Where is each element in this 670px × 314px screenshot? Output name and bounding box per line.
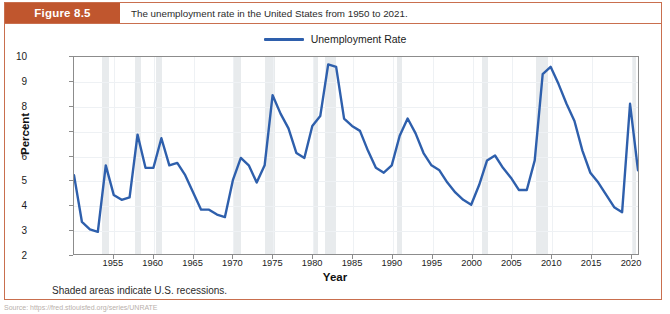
x-axis-tick-label: 2000: [461, 258, 482, 268]
x-axis-tick-label: 1975: [262, 258, 283, 268]
x-axis-tick-mark: [153, 255, 154, 259]
x-axis-tick-mark: [272, 255, 273, 259]
x-axis-tick-label: 1995: [421, 258, 442, 268]
x-axis-tick-mark: [591, 255, 592, 259]
x-axis-tick-label: 1970: [222, 258, 243, 268]
y-axis-tick-mark: [69, 255, 73, 256]
x-axis-tick-label: 2015: [581, 258, 602, 268]
y-axis-tick-label: 4: [0, 200, 27, 211]
y-axis-tick-label: 10: [0, 51, 27, 62]
x-axis-tick-label: 1990: [382, 258, 403, 268]
figure-number-badge: Figure 8.5: [5, 3, 120, 23]
x-axis-tick-label: 2020: [621, 258, 642, 268]
y-axis-tick-label: 9: [0, 75, 27, 86]
x-axis-tick-label: 1980: [302, 258, 323, 268]
figure-caption: The unemployment rate in the United Stat…: [120, 3, 661, 23]
plot-area: [73, 56, 639, 255]
x-axis-tick-mark: [352, 255, 353, 259]
y-axis-tick-label: 6: [0, 150, 27, 161]
figure-header: Figure 8.5 The unemployment rate in the …: [4, 2, 662, 24]
x-axis-tick-mark: [193, 255, 194, 259]
x-axis-tick-mark: [392, 255, 393, 259]
x-axis-tick-label: 1960: [142, 258, 163, 268]
x-axis-tick-label: 1965: [182, 258, 203, 268]
y-axis-tick-label: 5: [0, 175, 27, 186]
x-axis-tick-mark: [472, 255, 473, 259]
x-axis-tick-mark: [312, 255, 313, 259]
x-axis-tick-label: 1955: [103, 258, 124, 268]
x-axis-tick-mark: [432, 255, 433, 259]
recession-note: Shaded areas indicate U.S. recessions.: [52, 285, 227, 296]
source-line: Source: https://fred.stlouisfed.org/seri…: [4, 304, 158, 311]
x-axis-tick-mark: [232, 255, 233, 259]
y-axis-tick-label: 8: [0, 100, 27, 111]
x-axis-tick-mark: [631, 255, 632, 259]
y-axis-tick-label: 2: [0, 250, 27, 261]
series-unemployment-rate: [74, 57, 638, 254]
x-axis-tick-mark: [113, 255, 114, 259]
y-axis-tick-label: 7: [0, 125, 27, 136]
chart-legend: Unemployment Rate: [0, 33, 670, 45]
legend-label-unemployment-rate: Unemployment Rate: [311, 33, 407, 45]
x-axis-tick-label: 2010: [541, 258, 562, 268]
legend-line-swatch: [264, 38, 304, 41]
x-axis-tick-label: 2005: [501, 258, 522, 268]
figure-container: Figure 8.5 The unemployment rate in the …: [0, 0, 670, 314]
y-axis-tick-label: 3: [0, 225, 27, 236]
x-axis-title: Year: [0, 271, 670, 283]
x-axis-tick-mark: [511, 255, 512, 259]
plot-frame: [73, 56, 639, 255]
x-axis-tick-mark: [551, 255, 552, 259]
x-axis-tick-label: 1985: [342, 258, 363, 268]
